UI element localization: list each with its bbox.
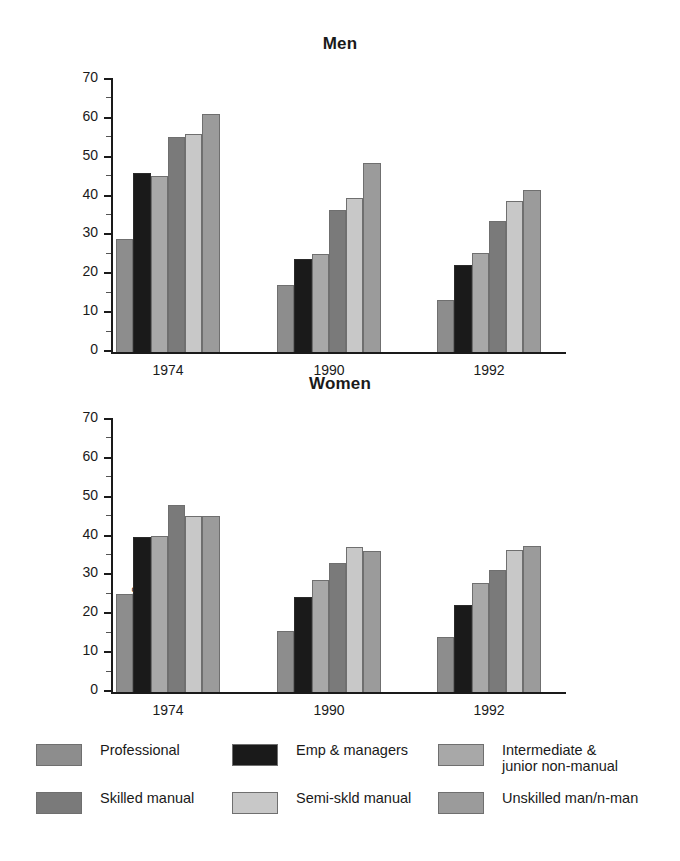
y-axis-tick [104, 78, 111, 80]
y-axis-tick [104, 233, 111, 235]
bar [454, 265, 471, 352]
legend-item[interactable]: Unskilled man/n-man [438, 790, 638, 814]
y-axis-tick [104, 496, 111, 498]
bar [472, 583, 489, 692]
y-axis-tick [104, 457, 111, 459]
legend-item[interactable]: Skilled manual [36, 790, 194, 814]
bar [151, 536, 168, 692]
legend-swatch [232, 744, 278, 766]
y-axis-tick-label: 50 [64, 488, 98, 502]
bar-group: 1992 [437, 420, 541, 692]
y-axis-minor-tick [106, 632, 111, 633]
y-axis-tick-label: 60 [64, 109, 98, 123]
legend-item[interactable]: Semi-skld manual [232, 790, 411, 814]
y-axis-tick [104, 690, 111, 692]
chart-legend: ProfessionalEmp & managersIntermediate &… [0, 742, 680, 842]
x-axis-group-label: 1992 [437, 702, 541, 718]
y-axis-minor-tick [106, 671, 111, 672]
bar [133, 537, 150, 692]
x-axis-group-label: 1990 [277, 702, 381, 718]
bar [346, 198, 363, 352]
y-axis-tick [104, 612, 111, 614]
bar [523, 546, 540, 692]
y-axis-tick [104, 418, 111, 420]
legend-label: Intermediate & junior non-manual [502, 742, 618, 774]
bar [346, 547, 363, 692]
bar-group-bars [437, 420, 541, 692]
y-axis-tick-label: 40 [64, 527, 98, 541]
bar [506, 201, 523, 352]
panel-title-men: Men [0, 34, 680, 54]
y-axis-tick-label: 20 [64, 264, 98, 278]
legend-swatch [36, 744, 82, 766]
bar-group-bars [277, 420, 381, 692]
y-axis-tick [104, 156, 111, 158]
x-axis-line-women [111, 692, 566, 694]
y-axis-minor-tick [106, 97, 111, 98]
legend-label: Skilled manual [100, 790, 194, 806]
bar-group-bars [116, 420, 220, 692]
bar [363, 163, 380, 352]
y-axis-minor-tick [106, 214, 111, 215]
y-axis-minor-tick [106, 437, 111, 438]
legend-swatch [438, 792, 484, 814]
y-axis-minor-tick [106, 515, 111, 516]
bar [116, 239, 133, 352]
bar [202, 516, 219, 692]
legend-swatch [438, 744, 484, 766]
y-axis-minor-tick [106, 593, 111, 594]
legend-item[interactable]: Emp & managers [232, 742, 408, 766]
bar [489, 221, 506, 352]
bar [312, 254, 329, 352]
y-axis-tick-label: 30 [64, 565, 98, 579]
y-axis-tick-label: 40 [64, 187, 98, 201]
bar [363, 551, 380, 692]
legend-label: Professional [100, 742, 180, 758]
y-axis-tick [104, 573, 111, 575]
panel-title-women: Women [0, 374, 680, 394]
y-axis-tick-label: 70 [64, 410, 98, 424]
bar [506, 550, 523, 692]
bar-group: 1990 [277, 420, 381, 692]
y-axis-tick-label: 10 [64, 303, 98, 317]
bar [489, 570, 506, 692]
bar [185, 134, 202, 352]
chart-panel-women: Women Percentage 197419901992 0102030405… [0, 340, 680, 730]
plot-area-men: Percentage 197419901992 [111, 80, 566, 352]
y-axis-minor-tick [106, 476, 111, 477]
bar [472, 253, 489, 352]
chart-panel-men: Men Percentage 197419901992 010203040506… [0, 0, 680, 390]
legend-label: Semi-skld manual [296, 790, 411, 806]
y-axis-minor-tick [106, 175, 111, 176]
bar-group: 1974 [116, 420, 220, 692]
y-axis-tick [104, 311, 111, 313]
bar-group-bars [116, 80, 220, 352]
y-axis-tick [104, 535, 111, 537]
bar [294, 597, 311, 692]
bar [294, 259, 311, 352]
legend-swatch [36, 792, 82, 814]
y-axis-tick [104, 195, 111, 197]
bar [168, 137, 185, 352]
bar [168, 505, 185, 692]
bar [133, 173, 150, 352]
legend-item[interactable]: Intermediate & junior non-manual [438, 742, 618, 774]
bar [185, 516, 202, 692]
y-axis-minor-tick [106, 292, 111, 293]
legend-label: Unskilled man/n-man [502, 790, 638, 806]
bar [329, 210, 346, 352]
y-axis-tick [104, 651, 111, 653]
y-axis-tick [104, 117, 111, 119]
bar-group-bars [437, 80, 541, 352]
y-axis-minor-tick [106, 253, 111, 254]
y-axis-tick-label: 10 [64, 643, 98, 657]
y-axis-tick-label: 50 [64, 148, 98, 162]
y-axis-tick [104, 272, 111, 274]
y-axis-minor-tick [106, 136, 111, 137]
legend-item[interactable]: Professional [36, 742, 180, 766]
y-axis-tick-label: 20 [64, 604, 98, 618]
bar [454, 605, 471, 692]
bar [202, 114, 219, 352]
bar-group: 1992 [437, 80, 541, 352]
bar [523, 190, 540, 352]
